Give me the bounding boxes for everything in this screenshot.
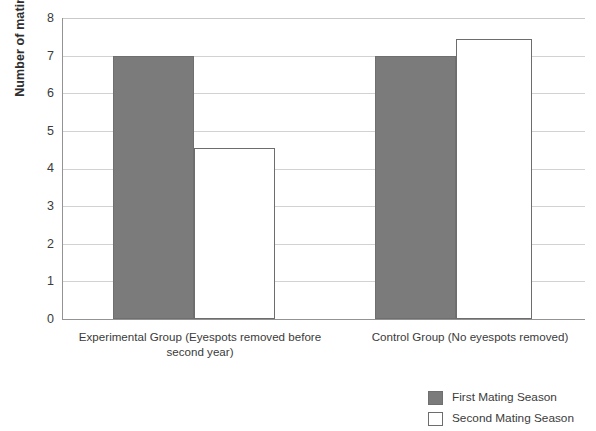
y-axis-line <box>62 18 63 319</box>
bar-control-first-season <box>375 56 456 319</box>
legend-swatch-icon-first <box>428 391 443 405</box>
legend-item-first-mating-season: First Mating Season <box>428 388 596 407</box>
legend: First Mating Season Second Mating Season <box>428 388 596 430</box>
y-tick-8: 8 <box>24 12 54 25</box>
bar-chart: Number of matings 8 7 6 5 4 3 2 1 0 Expe… <box>0 0 596 431</box>
legend-item-second-mating-season: Second Mating Season <box>428 409 596 428</box>
y-tick-7: 7 <box>24 50 54 63</box>
bar-experimental-second-season <box>194 148 275 319</box>
y-tick-3: 3 <box>24 200 54 213</box>
x-axis-category-label-control: Control Group (No eyespots removed) <box>360 330 580 345</box>
gridline-8 <box>62 18 585 19</box>
y-tick-0: 0 <box>24 313 54 326</box>
bar-experimental-first-season <box>113 56 194 319</box>
legend-swatch-icon-second <box>428 412 443 426</box>
y-tick-2: 2 <box>24 238 54 251</box>
x-axis-category-label-experimental: Experimental Group (Eyespots removed bef… <box>70 330 330 359</box>
legend-label-first: First Mating Season <box>452 392 557 404</box>
y-axis-tick-labels: 8 7 6 5 4 3 2 1 0 <box>22 18 54 319</box>
bar-control-second-season <box>456 39 532 319</box>
legend-label-second: Second Mating Season <box>452 413 574 425</box>
y-tick-4: 4 <box>24 162 54 175</box>
plot-area <box>62 18 585 319</box>
y-tick-6: 6 <box>24 87 54 100</box>
y-tick-1: 1 <box>24 275 54 288</box>
y-tick-5: 5 <box>24 125 54 138</box>
x-axis-line <box>62 319 585 320</box>
